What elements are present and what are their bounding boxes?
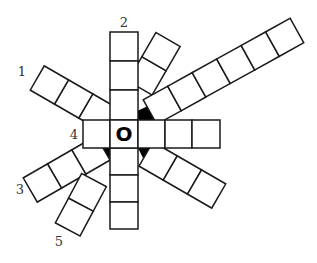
- arm-lower-right: [139, 142, 226, 208]
- label-3: 3: [16, 182, 24, 197]
- arm-4-cell-1[interactable]: [83, 120, 110, 148]
- label-4: 4: [70, 127, 78, 142]
- arm-4-cell-5[interactable]: [192, 120, 220, 148]
- arm-2-cell-1[interactable]: [110, 32, 138, 61]
- label-2: 2: [120, 15, 128, 30]
- arm-2-cell-5[interactable]: [110, 148, 138, 175]
- crossword-star-diagram: O 1 2 3 4 5: [0, 0, 317, 263]
- arm-4: [83, 120, 220, 148]
- label-5: 5: [55, 234, 63, 249]
- arm-2-cell-2[interactable]: [110, 61, 138, 90]
- arm-2-cell-7[interactable]: [110, 202, 138, 229]
- arm-4-cell-4[interactable]: [165, 120, 192, 148]
- center-letter: O: [115, 122, 132, 146]
- arm-2-cell-3[interactable]: [110, 90, 138, 120]
- arm-long-right: [143, 18, 304, 124]
- arm-4-cell-3[interactable]: [138, 120, 165, 148]
- arm-2-cell-6[interactable]: [110, 175, 138, 202]
- label-1: 1: [18, 64, 26, 79]
